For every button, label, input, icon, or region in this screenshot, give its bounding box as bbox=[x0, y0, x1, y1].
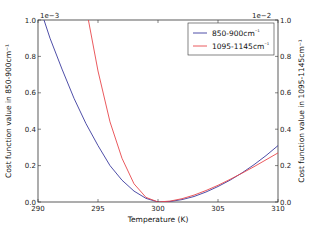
legend: 850-900cm⁻¹ 1095-1145cm⁻¹ bbox=[188, 23, 274, 55]
left-y-tick-label: 1.0 bbox=[25, 17, 36, 25]
legend-label-1095-1145: 1095-1145cm⁻¹ bbox=[212, 41, 269, 51]
left-y-axis-label: Cost function value in 850-900cm⁻¹ bbox=[4, 44, 13, 178]
right-y-tick-label: 1.0 bbox=[280, 17, 291, 25]
left-y-tick-label: 0.4 bbox=[25, 126, 37, 134]
x-tick-label: 305 bbox=[211, 205, 224, 213]
right-y-tick-label: 0.0 bbox=[280, 199, 291, 207]
right-y-tick-label: 0.4 bbox=[280, 126, 292, 134]
chart: 290295300305310 0.00.20.40.60.81.0 0.00.… bbox=[0, 0, 312, 231]
right-y-tick-label: 0.6 bbox=[280, 89, 292, 97]
right-scale-label: 1e−2 bbox=[252, 12, 271, 20]
left-scale-label: 1e−3 bbox=[40, 12, 59, 20]
left-y-tick-label: 0.2 bbox=[25, 162, 36, 170]
left-y-tick-label: 0.8 bbox=[25, 53, 36, 61]
left-y-tick-label: 0.6 bbox=[25, 89, 37, 97]
left-y-tick-label: 0.0 bbox=[25, 199, 36, 207]
legend-label-850-900: 850-900cm⁻¹ bbox=[212, 28, 259, 38]
right-y-tick-label: 0.2 bbox=[280, 162, 291, 170]
right-y-axis-label: Cost function value in 1095-1145cm⁻¹ bbox=[297, 39, 306, 182]
x-tick-label: 295 bbox=[91, 205, 104, 213]
x-axis-label: Temperature (K) bbox=[127, 215, 189, 224]
right-y-tick-label: 0.8 bbox=[280, 53, 291, 61]
x-tick-label: 300 bbox=[151, 205, 164, 213]
